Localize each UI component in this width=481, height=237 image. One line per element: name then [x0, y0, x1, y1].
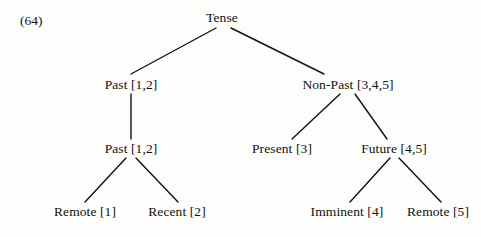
- tree-node-past1: Past [1,2]: [105, 78, 158, 92]
- tree-node-present: Present [3]: [252, 142, 312, 156]
- tree-edge-nonpast-to-future: [355, 94, 387, 139]
- tree-edge-past2-to-remote-past: [85, 158, 126, 202]
- tree-edge-future-to-remote-fut: [399, 158, 441, 202]
- tree-edge-tense-to-nonpast: [231, 28, 324, 74]
- tree-node-tense: Tense: [206, 11, 238, 25]
- tree-node-recent-past: Recent [2]: [148, 205, 206, 219]
- tree-edge-nonpast-to-present: [292, 94, 340, 139]
- tree-edge-past2-to-recent-past: [136, 158, 178, 202]
- tree-node-past2: Past [1,2]: [105, 142, 158, 156]
- tense-tree-figure: (64) TensePast [1,2]Non-Past [3,4,5]Past…: [0, 0, 481, 237]
- tree-node-imminent: Imminent [4]: [311, 205, 384, 219]
- tree-edge-tense-to-past1: [131, 28, 216, 74]
- tree-node-remote-past: Remote [1]: [54, 205, 116, 219]
- tree-node-future: Future [4,5]: [361, 142, 427, 156]
- tree-branch-lines: [0, 0, 481, 237]
- tree-edge-future-to-imminent: [350, 158, 390, 202]
- tree-node-remote-fut: Remote [5]: [407, 205, 469, 219]
- tree-node-nonpast: Non-Past [3,4,5]: [302, 78, 393, 92]
